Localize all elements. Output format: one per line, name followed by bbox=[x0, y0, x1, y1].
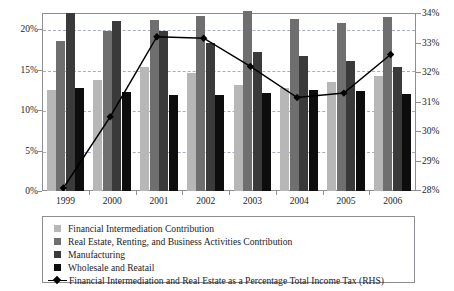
x-axis-tick bbox=[229, 191, 230, 195]
line-marker-diamond bbox=[153, 33, 160, 40]
line-series-layer bbox=[42, 13, 416, 191]
legend-item-label: Wholesale and Reatail bbox=[68, 262, 154, 274]
x-axis-label: 2005 bbox=[323, 196, 369, 207]
y-axis-right-tick bbox=[416, 131, 421, 132]
x-axis-tick bbox=[136, 191, 137, 195]
y-axis-right-tick-label: 28% bbox=[422, 185, 439, 195]
legend-item[interactable]: Real Estate, Renting, and Business Activ… bbox=[43, 235, 414, 248]
legend: Financial Intermediation ContributionRea… bbox=[42, 216, 415, 283]
x-axis-label: 2002 bbox=[183, 196, 229, 207]
y-axis-left-tick bbox=[37, 191, 42, 192]
y-axis-right-tick bbox=[416, 13, 421, 14]
legend-swatch-icon bbox=[54, 225, 61, 232]
x-axis-tick bbox=[323, 191, 324, 195]
legend-swatch-icon bbox=[54, 251, 61, 258]
y-axis-left-tick-label: 20% bbox=[12, 24, 38, 34]
y-axis-right-tick-label: 33% bbox=[422, 38, 439, 48]
y-axis-right-tick-label: 32% bbox=[422, 67, 439, 77]
legend-item[interactable]: Financial Intermediation Contribution bbox=[43, 222, 414, 235]
legend-item-label: Financial Intermediation and Real Estate… bbox=[69, 275, 384, 287]
legend-line-marker-icon bbox=[48, 276, 67, 285]
line-path bbox=[63, 37, 390, 188]
x-axis-label: 2000 bbox=[89, 196, 135, 207]
x-axis-tick bbox=[276, 191, 277, 195]
legend-rows: Financial Intermediation ContributionRea… bbox=[43, 217, 414, 287]
x-axis-label: 2006 bbox=[370, 196, 416, 207]
legend-item[interactable]: Financial Intermediation and Real Estate… bbox=[43, 274, 414, 287]
y-axis-right-tick-label: 29% bbox=[422, 156, 439, 166]
grouped-bar-line-chart: 20% 15% 10% 5% 0% 34% 33% 32% 31% 30% 29… bbox=[0, 0, 454, 291]
legend-item[interactable]: Manufacturing bbox=[43, 248, 414, 261]
y-axis-left-tick-label: 15% bbox=[12, 65, 38, 75]
x-axis-tick bbox=[182, 191, 183, 195]
legend-swatch-icon bbox=[54, 264, 61, 271]
legend-item-label: Real Estate, Renting, and Business Activ… bbox=[68, 236, 292, 248]
x-axis-label: 1999 bbox=[42, 196, 88, 207]
y-axis-left-tick-label: 0% bbox=[12, 186, 38, 196]
y-axis-right-tick bbox=[416, 43, 421, 44]
x-axis-label: 2004 bbox=[276, 196, 322, 207]
y-axis-right-tick bbox=[416, 190, 421, 191]
x-axis-label: 2001 bbox=[136, 196, 182, 207]
y-axis-right-tick-label: 30% bbox=[422, 126, 439, 136]
y-axis-right-tick bbox=[416, 161, 421, 162]
line-marker-diamond bbox=[200, 35, 207, 42]
y-axis-left-tick-label: 5% bbox=[12, 146, 38, 156]
legend-item-label: Manufacturing bbox=[68, 249, 125, 261]
x-axis-label: 2003 bbox=[229, 196, 275, 207]
y-axis-right-tick-label: 31% bbox=[422, 97, 439, 107]
y-axis-left-tick-label: 10% bbox=[12, 105, 38, 115]
legend-swatch-icon bbox=[54, 238, 61, 245]
y-axis-right-tick-label: 34% bbox=[422, 8, 439, 18]
y-axis-right-tick bbox=[416, 72, 421, 73]
x-axis-tick bbox=[89, 191, 90, 195]
legend-item-label: Financial Intermediation Contribution bbox=[68, 223, 214, 235]
legend-item[interactable]: Wholesale and Reatail bbox=[43, 261, 414, 274]
x-axis-tick bbox=[369, 191, 370, 195]
y-axis-right-tick bbox=[416, 102, 421, 103]
